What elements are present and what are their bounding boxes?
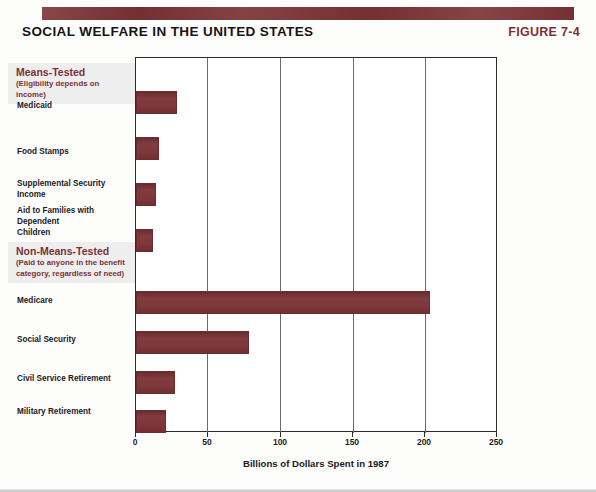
category-label-afdc-line2: Children [17, 228, 50, 237]
figure-number-label: FIGURE 7-4 [508, 25, 580, 39]
group-title-non-means-tested: Non-Means-Tested [16, 245, 131, 258]
figure-container: SOCIAL WELFARE IN THE UNITED STATES FIGU… [0, 0, 596, 492]
group-subtitle-non-means-tested-line2: category, regardless of need) [16, 269, 131, 280]
bar-social-security[interactable] [136, 331, 249, 354]
bar-medicare[interactable] [136, 291, 430, 314]
header-rule-decoration [42, 7, 574, 20]
bar-aid-to-families-with-dependent-children[interactable] [136, 229, 153, 252]
tick-label-150: 150 [337, 437, 367, 447]
category-label-supplemental-security-income: Supplemental Security Income [17, 178, 135, 200]
group-title-means-tested: Means-Tested [16, 66, 131, 79]
plot-area [135, 57, 497, 432]
bar-military-retirement[interactable] [136, 410, 166, 433]
group-header-non-means-tested: Non-Means-Tested (Paid to anyone in the … [8, 242, 135, 283]
bar-civil-service-retirement[interactable] [136, 371, 175, 394]
tick-label-0: 0 [120, 437, 150, 447]
group-subtitle-means-tested: (Eligibility depends on income) [16, 79, 131, 100]
category-label-military-retirement: Military Retirement [17, 406, 135, 417]
category-label-civil-service-retirement: Civil Service Retirement [17, 373, 135, 384]
page-title: SOCIAL WELFARE IN THE UNITED STATES [22, 24, 314, 39]
category-label-medicaid: Medicaid [17, 100, 135, 111]
gridline-200 [425, 58, 426, 433]
category-label-food-stamps: Food Stamps [17, 146, 135, 157]
gridline-100 [280, 58, 281, 433]
category-label-social-security: Social Security [17, 334, 135, 345]
tick-label-50: 50 [192, 437, 222, 447]
bar-food-stamps[interactable] [136, 137, 159, 160]
group-subtitle-non-means-tested-line1: (Paid to anyone in the benefit [16, 258, 131, 269]
gridline-150 [353, 58, 354, 433]
category-label-medicare: Medicare [17, 295, 135, 306]
bar-supplemental-security-income[interactable] [136, 183, 156, 206]
bar-medicaid[interactable] [136, 91, 177, 114]
x-axis-title: Billions of Dollars Spent in 1987 [135, 458, 497, 469]
category-label-afdc-line1: Aid to Families with Dependent [17, 206, 94, 226]
tick-label-100: 100 [265, 437, 295, 447]
group-header-means-tested: Means-Tested (Eligibility depends on inc… [8, 63, 135, 104]
tick-label-200: 200 [409, 437, 439, 447]
tick-label-250: 250 [481, 437, 511, 447]
category-label-aid-to-families-with-dependent-children: Aid to Families with Dependent Children [17, 205, 135, 238]
gridline-50 [207, 58, 208, 433]
